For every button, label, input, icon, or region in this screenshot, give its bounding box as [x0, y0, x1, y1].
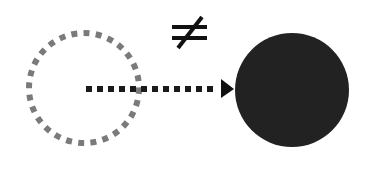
- diagram-canvas: ≠: [0, 0, 377, 170]
- diagram-svg: [0, 0, 377, 170]
- filled-dark-circle: [235, 33, 349, 147]
- not-equal-icon: [172, 17, 207, 48]
- arrowhead-icon: [221, 79, 234, 98]
